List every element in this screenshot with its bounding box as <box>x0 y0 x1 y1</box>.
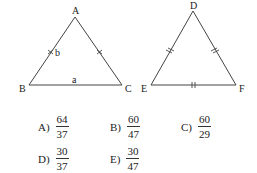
denominator: 29 <box>199 127 210 140</box>
numerator: 60 <box>127 113 140 127</box>
tick-mark-ac <box>97 50 102 54</box>
choice-letter: C) <box>181 121 192 133</box>
vertex-b-label: B <box>19 83 26 94</box>
triangle-abc: A B C b a <box>19 5 132 94</box>
choice-c[interactable]: C) 60 29 <box>181 113 211 140</box>
side-a-label: a <box>72 74 77 85</box>
denominator: 37 <box>57 159 68 172</box>
choice-a[interactable]: A) 64 37 <box>38 113 69 140</box>
denominator: 37 <box>57 127 68 140</box>
fraction: 60 29 <box>198 113 211 140</box>
fraction: 30 37 <box>56 145 69 172</box>
fraction: 30 47 <box>126 145 139 172</box>
choice-letter: A) <box>38 121 50 133</box>
choice-d[interactable]: D) 30 37 <box>38 145 69 172</box>
fraction: 60 47 <box>127 113 140 140</box>
numerator: 64 <box>56 113 69 127</box>
triangle-figures: A B C b a D E F <box>0 0 257 100</box>
vertex-a-label: A <box>72 5 80 16</box>
choice-letter: E) <box>110 153 120 165</box>
vertex-c-label: C <box>125 83 132 94</box>
denominator: 47 <box>127 159 138 172</box>
choice-letter: B) <box>110 121 121 133</box>
choice-letter: D) <box>38 153 50 165</box>
denominator: 47 <box>128 127 139 140</box>
numerator: 30 <box>56 145 69 159</box>
tick-mark-df <box>211 48 219 53</box>
vertex-e-label: E <box>141 83 147 94</box>
choice-b[interactable]: B) 60 47 <box>110 113 140 140</box>
numerator: 60 <box>198 113 211 127</box>
vertex-d-label: D <box>190 0 197 11</box>
tick-mark-de <box>166 48 174 53</box>
numerator: 30 <box>126 145 139 159</box>
triangle-def: D E F <box>141 0 245 94</box>
choice-e[interactable]: E) 30 47 <box>110 145 139 172</box>
fraction: 64 37 <box>56 113 69 140</box>
vertex-f-label: F <box>239 83 245 94</box>
side-b-label: b <box>55 47 60 58</box>
